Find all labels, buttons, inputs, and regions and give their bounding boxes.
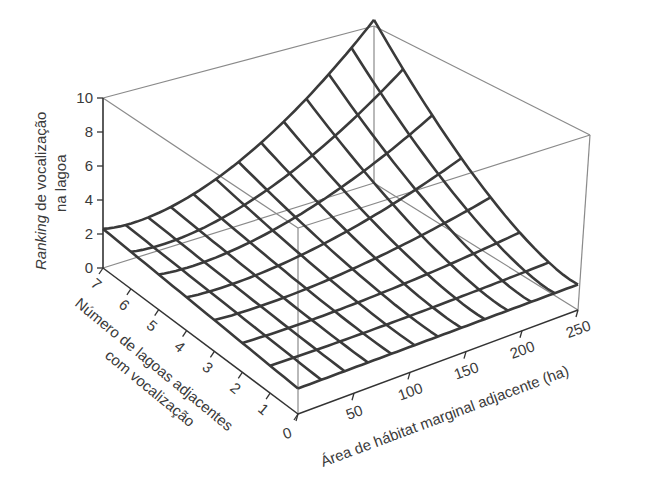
surface-chart: 02468100501001502002501234567 Ranking de… <box>0 0 645 488</box>
svg-text:2: 2 <box>85 225 93 242</box>
svg-text:4: 4 <box>171 337 188 355</box>
surface-mesh <box>103 20 578 389</box>
z-axis-label-line2: na lagoa <box>52 154 69 212</box>
svg-text:3: 3 <box>199 358 216 376</box>
z-axis-label: Ranking de vocalização <box>32 112 49 270</box>
svg-text:2: 2 <box>227 379 244 397</box>
svg-text:6: 6 <box>85 157 93 174</box>
svg-text:8: 8 <box>85 123 93 140</box>
svg-text:0: 0 <box>280 423 294 442</box>
svg-text:250: 250 <box>563 317 592 342</box>
svg-text:1: 1 <box>255 400 272 418</box>
mesh-line-n <box>270 262 549 365</box>
svg-text:50: 50 <box>343 401 364 423</box>
svg-text:200: 200 <box>507 337 536 362</box>
svg-text:7: 7 <box>88 275 105 293</box>
mesh-line-n <box>103 20 374 229</box>
svg-text:100: 100 <box>395 379 424 404</box>
svg-text:0: 0 <box>85 259 93 276</box>
svg-text:150: 150 <box>451 358 480 383</box>
svg-text:10: 10 <box>76 89 93 106</box>
svg-text:5: 5 <box>144 316 161 334</box>
svg-text:6: 6 <box>116 295 133 313</box>
svg-text:4: 4 <box>85 191 93 208</box>
